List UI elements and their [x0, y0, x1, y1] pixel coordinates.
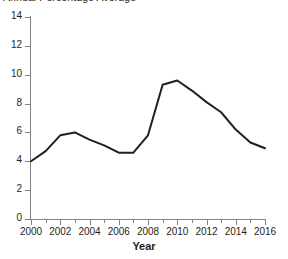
x-axis-title: Year [0, 240, 288, 252]
series-line-layer [0, 0, 288, 259]
plot-area: 02468101214 2000200220042006200820102012… [0, 0, 288, 259]
chart-figure: Annual Percentage Average 02468101214 20… [0, 0, 288, 259]
series-line [31, 80, 265, 161]
